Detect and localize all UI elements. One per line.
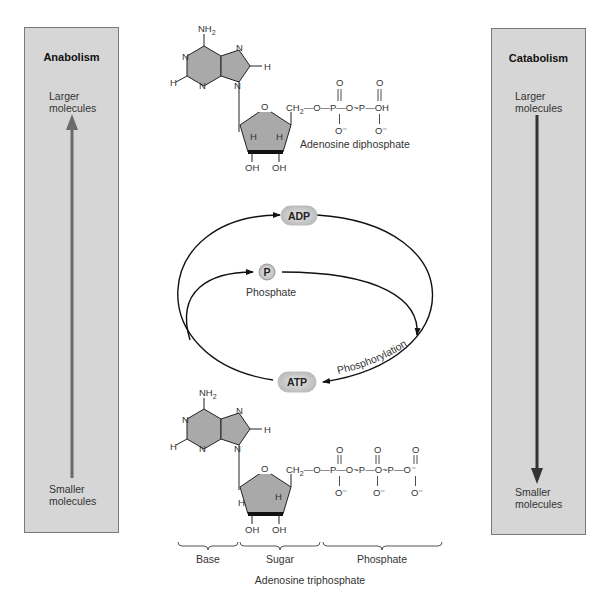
svg-text:P: P [263, 266, 270, 278]
adp-molecule: NH2 N N H N N H O H H OH OH CH2—O—P—O~P—… [170, 23, 410, 173]
svg-text:ADP: ADP [288, 210, 310, 222]
adp-amine: NH2 [198, 23, 216, 36]
svg-text:N: N [236, 42, 243, 53]
svg-text:O: O [261, 463, 268, 474]
svg-text:O: O [376, 77, 383, 88]
svg-text:OH: OH [245, 162, 259, 173]
adp-name: Adenosine diphosphate [300, 138, 410, 150]
svg-text:CH2—O—P—O~P—O~P—O⁻: CH2—O—P—O~P—O~P—O⁻ [286, 464, 416, 477]
svg-text:H: H [264, 61, 271, 72]
svg-text:N: N [236, 405, 243, 416]
svg-text:H: H [276, 131, 283, 142]
svg-text:O: O [336, 444, 343, 455]
anabolism-arrow-icon [66, 114, 78, 478]
svg-text:H: H [238, 497, 245, 508]
segment-phosphate-label: Phosphate [357, 553, 407, 565]
svg-text:O: O [336, 77, 343, 88]
svg-text:H: H [250, 131, 257, 142]
svg-text:N: N [234, 443, 241, 454]
svg-text:CH2—O—P—O~P—OH: CH2—O—P—O~P—OH [286, 102, 389, 115]
atp-adp-cycle: ADP P Phosphate ATP Phosphorylation [178, 206, 433, 392]
svg-text:O⁻: O⁻ [335, 125, 347, 136]
svg-text:O⁻: O⁻ [375, 125, 387, 136]
atp-node: ATP [278, 372, 316, 392]
adenine-base-icon [176, 34, 262, 132]
phosphate-node: P [259, 264, 275, 280]
atp-amine: NH2 [199, 387, 217, 400]
svg-text:O: O [261, 101, 268, 112]
svg-text:N: N [199, 80, 206, 91]
svg-text:ATP: ATP [287, 376, 307, 388]
svg-text:N: N [182, 51, 189, 62]
svg-text:OH: OH [272, 162, 286, 173]
segment-sugar-label: Sugar [266, 553, 295, 565]
svg-text:OH: OH [272, 524, 286, 535]
segment-braces [178, 542, 442, 550]
svg-text:H: H [170, 441, 177, 452]
svg-text:N: N [234, 80, 241, 91]
segment-base-label: Base [196, 553, 220, 565]
svg-text:O: O [374, 444, 381, 455]
svg-text:N: N [182, 414, 189, 425]
adenine-base-icon [176, 398, 262, 490]
svg-text:N: N [199, 443, 206, 454]
atp-name: Adenosine triphosphate [255, 574, 365, 586]
ribose-sugar-icon [240, 470, 291, 524]
svg-text:O⁻: O⁻ [411, 487, 423, 498]
diagram-canvas: NH2 N N H N N H O H H OH OH CH2—O—P—O~P—… [0, 0, 603, 602]
svg-text:H: H [275, 491, 282, 502]
svg-text:OH: OH [245, 524, 259, 535]
adp-node: ADP [281, 206, 317, 225]
svg-text:O⁻: O⁻ [335, 487, 347, 498]
svg-text:O⁻: O⁻ [373, 487, 385, 498]
ribose-sugar-icon [240, 108, 291, 162]
atp-molecule: NH2 N N H N N H O H H OH OH CH2—O—P—O~P—… [170, 387, 442, 586]
phosphorylation-label: Phosphorylation [336, 337, 409, 376]
catabolism-arrow-icon [531, 115, 543, 484]
svg-text:H: H [170, 77, 177, 88]
phosphate-label: Phosphate [246, 286, 296, 298]
svg-text:H: H [264, 424, 271, 435]
svg-text:O: O [412, 444, 419, 455]
